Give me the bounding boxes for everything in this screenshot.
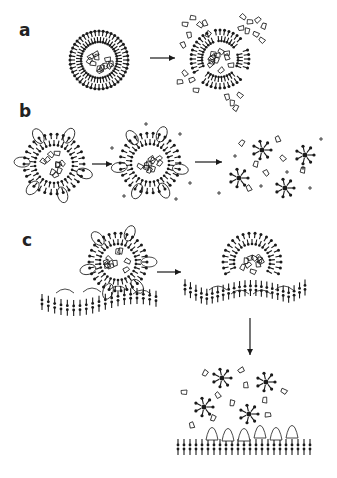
- cargo-molecule-icon: [245, 28, 250, 35]
- lipid-head-icon: [47, 304, 50, 307]
- lipid-head-icon: [249, 289, 252, 292]
- arrow-head-icon: [247, 349, 253, 355]
- lipid-head-icon: [122, 74, 125, 77]
- lipid-head-icon: [280, 261, 283, 264]
- lipid-head-icon: [66, 304, 69, 307]
- lipid-head-icon: [227, 288, 230, 291]
- lipid-head-icon: [312, 153, 315, 156]
- cargo-molecule-icon: [254, 16, 261, 23]
- lipid-head-icon: [132, 270, 135, 273]
- lipid-head-icon: [270, 373, 273, 376]
- lipid-head-icon: [115, 52, 118, 55]
- micelle-core-icon: [220, 376, 225, 381]
- cargo-molecule-icon: [180, 41, 187, 48]
- lipid-head-icon: [261, 444, 264, 447]
- lipid-head-icon: [194, 409, 197, 412]
- cargo-molecule-icon: [249, 269, 256, 275]
- lipid-head-icon: [207, 448, 210, 451]
- cargo-molecule-icon: [237, 367, 244, 374]
- lipid-head-icon: [160, 177, 163, 180]
- lipid-head-icon: [124, 71, 127, 74]
- lipid-head-icon: [67, 175, 70, 178]
- lipid-head-icon: [134, 136, 137, 139]
- lipid-head-icon: [66, 308, 69, 311]
- lipid-head-icon: [36, 153, 39, 156]
- lipid-head-icon: [168, 160, 171, 163]
- lipid-head-icon: [73, 43, 76, 46]
- ruptured-vesicle: [177, 13, 267, 111]
- lipid-head-icon: [248, 58, 251, 61]
- cargo-molecule-icon: [238, 25, 245, 31]
- cargo-molecule-icon: [189, 422, 195, 429]
- lipid-head-icon: [176, 174, 179, 177]
- lipid-head-icon: [191, 66, 194, 69]
- lipid-head-icon: [124, 179, 127, 182]
- lipid-head-icon: [91, 306, 94, 309]
- lipid-head-icon: [178, 155, 181, 158]
- lipid-head-icon: [273, 448, 276, 451]
- lipid-head-icon: [216, 295, 219, 298]
- lipid-head-icon: [102, 235, 105, 238]
- lipid-head-icon: [190, 53, 193, 56]
- lipid-head-icon: [100, 266, 103, 269]
- lipid-head-icon: [195, 448, 198, 451]
- lipid-head-icon: [261, 246, 264, 249]
- lipid-head-icon: [222, 293, 225, 296]
- lipid-head-icon: [124, 46, 127, 49]
- lipid-head-icon: [269, 148, 272, 151]
- lipid-head-icon: [167, 168, 170, 171]
- lipid-head-icon: [94, 41, 97, 44]
- lipid-head-icon: [226, 383, 229, 386]
- cargo-molecule-icon: [122, 266, 129, 273]
- lipid-head-icon: [129, 297, 132, 300]
- lipid-head-icon: [211, 292, 214, 295]
- lipid-head-icon: [195, 444, 198, 447]
- lipid-head-icon: [69, 54, 72, 57]
- lipid-head-icon: [303, 444, 306, 447]
- cargo-molecule-icon: [193, 88, 199, 93]
- lipid-head-icon: [190, 58, 193, 61]
- lipid-head-icon: [130, 160, 133, 163]
- lipid-head-icon: [277, 249, 280, 252]
- lipid-head-icon: [208, 398, 211, 401]
- lipid-head-icon: [145, 191, 148, 194]
- cargo-molecule-icon: [224, 93, 230, 100]
- lipid-head-icon: [273, 380, 276, 383]
- lipid-head-icon: [240, 246, 243, 249]
- receptor-icon: [222, 429, 234, 442]
- lipid-head-icon: [201, 81, 204, 84]
- lipid-head-icon: [168, 164, 171, 167]
- lipid-head-icon: [136, 297, 139, 300]
- lipid-head-icon: [113, 83, 116, 86]
- panel-a: [69, 13, 267, 111]
- cargo-molecule-icon: [210, 414, 216, 421]
- lipid-head-icon: [254, 232, 257, 235]
- lipid-head-icon: [309, 160, 312, 163]
- lipid-head-icon: [80, 175, 83, 178]
- lipid-head-icon: [237, 249, 240, 252]
- lipid-head-icon: [93, 30, 96, 33]
- lipid-head-icon: [93, 87, 96, 90]
- micelle-core-icon: [283, 186, 288, 191]
- lipid-head-icon: [271, 291, 274, 294]
- lipid-head-icon: [38, 188, 41, 191]
- membrane-protein-icon: [75, 166, 93, 180]
- lipid-head-icon: [156, 179, 159, 182]
- lipid-head-icon: [119, 162, 122, 165]
- lipid-head-icon: [49, 133, 52, 136]
- lipid-head-icon: [28, 180, 31, 183]
- cargo-molecule-icon: [262, 397, 267, 403]
- cargo-molecule-icon: [239, 13, 246, 20]
- lipid-head-icon: [83, 163, 86, 166]
- panel-b: [14, 122, 323, 204]
- lipid-head-icon: [98, 300, 101, 303]
- lipid-head-icon: [212, 380, 215, 383]
- cargo-molecule-icon: [253, 160, 259, 167]
- lipid-head-icon: [297, 444, 300, 447]
- lipid-head-icon: [91, 302, 94, 305]
- lipid-head-icon: [110, 301, 113, 304]
- lipid-head-icon: [222, 254, 225, 257]
- lipid-head-icon: [79, 80, 82, 83]
- cargo-molecule-icon: [188, 77, 195, 83]
- lipid-head-icon: [49, 181, 52, 184]
